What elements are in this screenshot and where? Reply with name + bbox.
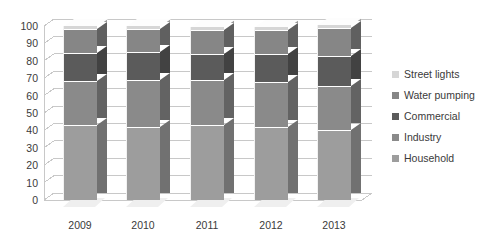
- y-axis-tick-label: 80: [26, 56, 38, 66]
- segment-divider: [127, 29, 160, 30]
- bar-segment[interactable]: [317, 28, 351, 56]
- bar-segment-side-face: [97, 46, 107, 74]
- x-axis-tick-label: 2011: [183, 219, 231, 231]
- segment-divider: [318, 86, 351, 87]
- bar-segment-side-face: [288, 120, 298, 193]
- bar-segment-side-face: [224, 47, 234, 73]
- bar-segment-side-face: [288, 47, 298, 75]
- segment-divider: [127, 127, 160, 128]
- y-axis-tick-label: 70: [26, 73, 38, 83]
- legend-label: Industry: [404, 132, 441, 143]
- segment-divider: [127, 80, 160, 81]
- y-axis-tick-label: 60: [26, 91, 38, 101]
- x-axis-tick-label: 2010: [119, 219, 167, 231]
- segment-divider: [64, 81, 97, 82]
- bar-segment[interactable]: [63, 81, 97, 125]
- bar-top-face: [127, 19, 161, 26]
- segment-divider: [255, 54, 288, 55]
- bar-segment-side-face: [160, 73, 170, 120]
- bar-top-face: [255, 20, 289, 27]
- bar-segment-side-face: [351, 123, 361, 193]
- bar-segment-side-face: [351, 79, 361, 123]
- y-axis-tick-label: 30: [26, 143, 38, 153]
- segment-divider: [191, 80, 224, 81]
- y-axis-tick-label: 40: [26, 125, 38, 135]
- legend-label: Commercial: [404, 111, 460, 122]
- x-axis-tick-label: 2013: [310, 219, 358, 231]
- x-axis-tick-label: 2012: [247, 219, 295, 231]
- bar-segment[interactable]: [126, 52, 160, 80]
- bar-column[interactable]: [63, 26, 97, 200]
- legend-swatch-icon: [392, 134, 399, 141]
- segment-divider: [64, 53, 97, 54]
- y-axis: 1009080706050403020100: [0, 8, 44, 214]
- bar-segment-side-face: [97, 118, 107, 193]
- legend-swatch-icon: [392, 71, 399, 78]
- bar-column[interactable]: [317, 25, 351, 200]
- segment-divider: [318, 130, 351, 131]
- bar-segment[interactable]: [254, 82, 288, 127]
- y-axis-tick-label: 0: [32, 195, 38, 205]
- segment-divider: [255, 82, 288, 83]
- bar-top-face: [64, 19, 98, 26]
- bar-segment[interactable]: [190, 80, 224, 125]
- bar-segment[interactable]: [126, 29, 160, 52]
- segment-divider: [127, 52, 160, 53]
- plot-area: [44, 8, 372, 214]
- chart-container: 1009080706050403020100 20092010201120122…: [0, 0, 499, 242]
- bar-segment[interactable]: [317, 86, 351, 130]
- segment-divider: [191, 30, 224, 31]
- segment-divider: [64, 29, 97, 30]
- y-axis-tick-label: 50: [26, 108, 38, 118]
- segment-divider: [191, 125, 224, 126]
- bars-layer: [44, 8, 372, 214]
- legend-item[interactable]: Household: [392, 148, 496, 169]
- legend-item[interactable]: Industry: [392, 127, 496, 148]
- bar-segment-side-face: [288, 75, 298, 120]
- bar-segment-side-face: [97, 74, 107, 118]
- legend-item[interactable]: Street lights: [392, 64, 496, 85]
- x-axis-tick-label: 2009: [56, 219, 104, 231]
- bar-segment[interactable]: [126, 127, 160, 200]
- bar-segment[interactable]: [254, 127, 288, 200]
- legend-swatch-icon: [392, 92, 399, 99]
- y-axis-tick-label: 90: [26, 38, 38, 48]
- bar-segment[interactable]: [254, 54, 288, 82]
- bar-segment[interactable]: [190, 30, 224, 54]
- bar-segment-side-face: [160, 120, 170, 193]
- y-axis-tick-label: 10: [26, 178, 38, 188]
- legend-label: Household: [404, 153, 454, 164]
- segment-divider: [318, 56, 351, 57]
- legend-item[interactable]: Commercial: [392, 106, 496, 127]
- chart-legend: Street lightsWater pumpingCommercialIndu…: [392, 64, 496, 169]
- bar-segment[interactable]: [63, 125, 97, 200]
- segment-divider: [255, 127, 288, 128]
- legend-swatch-icon: [392, 113, 399, 120]
- y-axis-tick-label: 100: [20, 21, 38, 31]
- bar-column[interactable]: [190, 27, 224, 200]
- bar-column[interactable]: [126, 26, 160, 200]
- bar-top-face: [318, 18, 352, 25]
- x-axis: 20092010201120122013: [44, 216, 384, 236]
- bar-segment-side-face: [224, 73, 234, 118]
- y-axis-tick-label: 20: [26, 160, 38, 170]
- segment-divider: [64, 125, 97, 126]
- segment-divider: [318, 28, 351, 29]
- bar-segment[interactable]: [63, 29, 97, 53]
- bar-segment-side-face: [351, 49, 361, 79]
- bar-segment[interactable]: [190, 54, 224, 80]
- segment-divider: [255, 30, 288, 31]
- legend-item[interactable]: Water pumping: [392, 85, 496, 106]
- bar-segment[interactable]: [190, 125, 224, 200]
- bar-segment[interactable]: [126, 80, 160, 127]
- legend-label: Water pumping: [404, 90, 475, 101]
- bar-segment-side-face: [160, 45, 170, 73]
- bar-segment[interactable]: [317, 56, 351, 86]
- bar-segment-side-face: [351, 21, 361, 49]
- bar-column[interactable]: [254, 27, 288, 200]
- legend-label: Street lights: [404, 69, 459, 80]
- bar-segment[interactable]: [317, 130, 351, 200]
- bar-segment[interactable]: [254, 30, 288, 54]
- bar-segment[interactable]: [63, 53, 97, 81]
- bar-top-face: [191, 20, 225, 27]
